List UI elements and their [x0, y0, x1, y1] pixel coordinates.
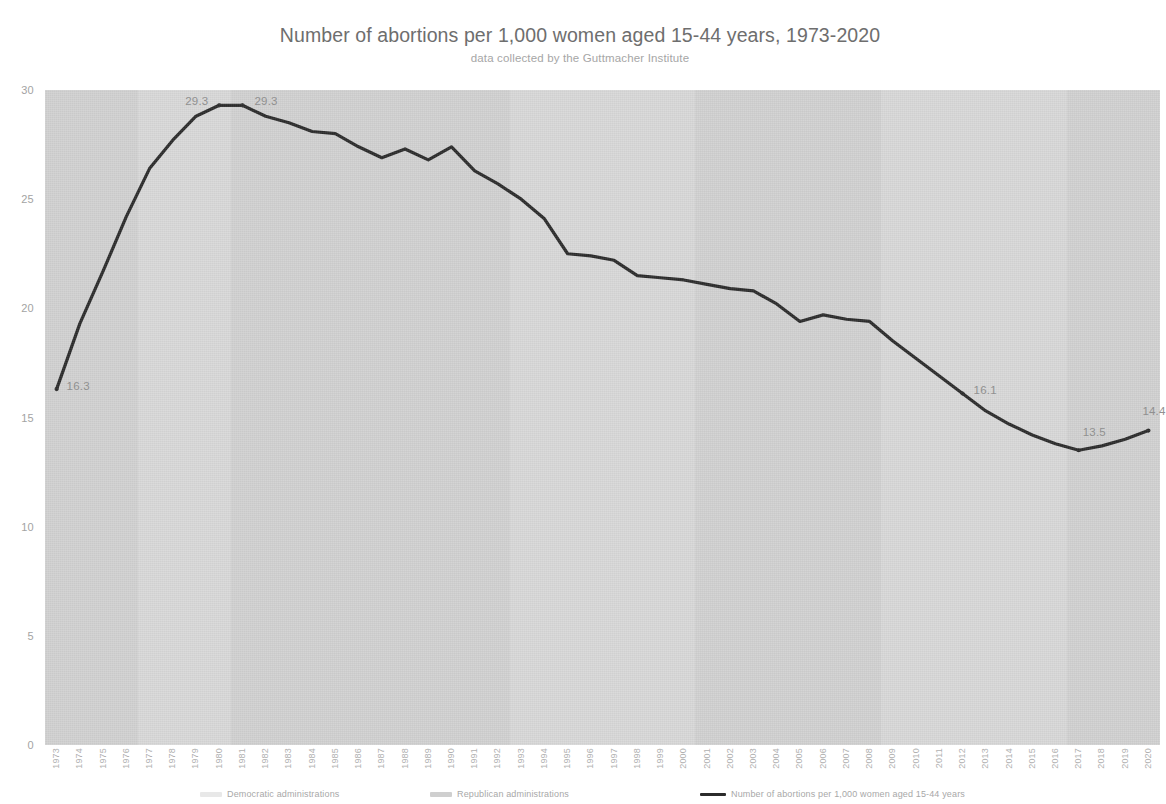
x-axis: 1973197419751976197719781979198019811982…	[45, 748, 1160, 790]
data-series-line	[45, 90, 1160, 745]
x-axis-tick-1974: 1974	[75, 748, 84, 769]
x-axis-tick-1976: 1976	[122, 748, 131, 769]
x-axis-tick-1977: 1977	[145, 748, 154, 769]
x-axis-tick-1975: 1975	[99, 748, 108, 769]
y-axis-tick-25: 25	[21, 193, 34, 205]
x-axis-tick-2014: 2014	[1005, 748, 1014, 769]
legend: Democratic administrationsRepublican adm…	[0, 786, 1160, 802]
x-axis-tick-2015: 2015	[1028, 748, 1037, 769]
x-axis-tick-2011: 2011	[935, 748, 944, 768]
x-axis-tick-2016: 2016	[1051, 748, 1060, 769]
x-axis-tick-2002: 2002	[726, 748, 735, 769]
x-axis-tick-2005: 2005	[795, 748, 804, 769]
x-axis-tick-2013: 2013	[981, 748, 990, 769]
legend-item-2[interactable]: Number of abortions per 1,000 women aged…	[700, 789, 965, 799]
x-axis-tick-2017: 2017	[1074, 748, 1083, 769]
x-axis-tick-2010: 2010	[912, 748, 921, 769]
data-point-marker-2020	[1146, 429, 1150, 433]
x-axis-tick-1994: 1994	[540, 748, 549, 769]
legend-item-label: Number of abortions per 1,000 women aged…	[731, 789, 965, 799]
x-axis-tick-1973: 1973	[52, 748, 61, 769]
x-axis-tick-1984: 1984	[308, 748, 317, 769]
data-point-marker-1973	[55, 387, 59, 391]
x-axis-tick-1998: 1998	[633, 748, 642, 769]
x-axis-tick-2020: 2020	[1144, 748, 1153, 769]
x-axis-tick-1990: 1990	[447, 748, 456, 769]
x-axis-tick-2008: 2008	[865, 748, 874, 769]
x-axis-tick-2006: 2006	[819, 748, 828, 769]
x-axis-tick-2018: 2018	[1097, 748, 1106, 769]
x-axis-tick-1981: 1981	[238, 748, 247, 769]
chart-subtitle: data collected by the Guttmacher Institu…	[0, 50, 1160, 66]
y-axis-tick-0: 0	[28, 739, 34, 751]
x-axis-tick-1979: 1979	[191, 748, 200, 769]
legend-item-1[interactable]: Republican administrations	[430, 789, 569, 799]
x-axis-tick-1997: 1997	[610, 748, 619, 769]
x-axis-tick-1988: 1988	[401, 748, 410, 769]
x-axis-tick-1987: 1987	[377, 748, 386, 769]
legend-band-swatch	[200, 792, 222, 797]
y-axis-tick-15: 15	[21, 412, 34, 424]
y-axis-tick-10: 10	[21, 521, 34, 533]
x-axis-tick-1983: 1983	[284, 748, 293, 769]
data-point-marker-1980	[217, 103, 221, 107]
x-axis-tick-2019: 2019	[1121, 748, 1130, 769]
x-axis-tick-1985: 1985	[331, 748, 340, 769]
x-axis-tick-2004: 2004	[772, 748, 781, 769]
data-point-marker-1981	[240, 103, 244, 107]
data-point-marker-2012	[960, 391, 964, 395]
x-axis-tick-1986: 1986	[354, 748, 363, 769]
data-point-marker-2017	[1077, 448, 1081, 452]
y-axis-tick-5: 5	[28, 630, 34, 642]
y-axis-tick-20: 20	[21, 302, 34, 314]
legend-line-swatch	[700, 793, 726, 796]
x-axis-tick-2003: 2003	[749, 748, 758, 769]
legend-band-swatch	[430, 792, 452, 797]
x-axis-tick-1989: 1989	[424, 748, 433, 769]
x-axis-tick-1980: 1980	[215, 748, 224, 769]
x-axis-tick-1999: 1999	[656, 748, 665, 769]
x-axis-tick-2000: 2000	[679, 748, 688, 769]
x-axis-tick-2001: 2001	[703, 748, 712, 769]
page-title: Number of abortions per 1,000 women aged…	[0, 22, 1160, 48]
title-block: Number of abortions per 1,000 women aged…	[0, 22, 1160, 66]
x-axis-tick-1992: 1992	[493, 748, 502, 769]
x-axis-tick-1991: 1991	[470, 748, 479, 769]
legend-item-label: Democratic administrations	[227, 789, 339, 799]
series-polyline	[57, 105, 1149, 450]
plot-area	[45, 90, 1160, 745]
x-axis-tick-2007: 2007	[842, 748, 851, 769]
x-axis-tick-1995: 1995	[563, 748, 572, 769]
x-axis-tick-1993: 1993	[517, 748, 526, 769]
y-axis-tick-30: 30	[21, 84, 34, 96]
x-axis-tick-2012: 2012	[958, 748, 967, 769]
x-axis-tick-1996: 1996	[586, 748, 595, 769]
legend-item-0[interactable]: Democratic administrations	[200, 789, 339, 799]
x-axis-tick-1978: 1978	[168, 748, 177, 769]
x-axis-tick-2009: 2009	[888, 748, 897, 769]
y-axis: 051015202530	[0, 90, 40, 745]
legend-item-label: Republican administrations	[457, 789, 569, 799]
x-axis-tick-1982: 1982	[261, 748, 270, 769]
